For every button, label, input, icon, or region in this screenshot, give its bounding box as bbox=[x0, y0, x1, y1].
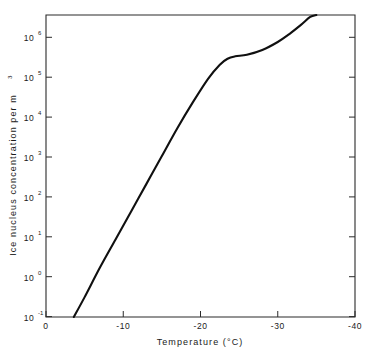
y-axis-title: Ice nucleus concentration per m bbox=[8, 94, 18, 256]
y-tick-label-5-exponent: 5 bbox=[38, 70, 42, 76]
y-tick-labels: 10 6 10 5 10 4 10 3 10 2 10 1 10 0 10 -1 bbox=[24, 30, 44, 323]
plot-frame bbox=[46, 15, 355, 317]
x-tick-label-0: 0 bbox=[43, 321, 48, 331]
y-tick-label-5-mantissa: 10 bbox=[24, 73, 35, 83]
ice-nucleus-concentration-chart: 10 6 10 5 10 4 10 3 10 2 10 1 10 0 10 -1… bbox=[0, 0, 382, 351]
y-tick-label-4-mantissa: 10 bbox=[24, 113, 35, 123]
y-tick-label-3-mantissa: 10 bbox=[24, 153, 35, 163]
y-tick-label-1-mantissa: 10 bbox=[24, 233, 35, 243]
y-axis-title-group: Ice nucleus concentration per m 3 bbox=[6, 75, 18, 256]
x-tick-label-neg10: -10 bbox=[116, 321, 130, 331]
x-tick-labels: 0 -10 -20 -30 -40 bbox=[43, 321, 362, 331]
y-tick-label-4-exponent: 4 bbox=[38, 110, 42, 116]
y-tick-label-0-mantissa: 10 bbox=[24, 273, 35, 283]
y-tick-label-6-exponent: 6 bbox=[38, 30, 42, 36]
y-tick-label-2-exponent: 2 bbox=[38, 190, 42, 196]
x-tick-label-neg20: -20 bbox=[193, 321, 207, 331]
y-axis-title-exponent: 3 bbox=[6, 75, 13, 79]
y-tick-label-2-mantissa: 10 bbox=[24, 193, 35, 203]
y-tick-label-neg1-exponent: -1 bbox=[38, 310, 44, 316]
x-axis-ticks bbox=[46, 311, 355, 317]
y-tick-label-1-exponent: 1 bbox=[38, 230, 42, 236]
chart-canvas: 10 6 10 5 10 4 10 3 10 2 10 1 10 0 10 -1… bbox=[0, 0, 382, 351]
y-tick-label-6-mantissa: 10 bbox=[24, 33, 35, 43]
axis-frame-path bbox=[46, 15, 355, 317]
y-tick-label-neg1-mantissa: 10 bbox=[24, 313, 35, 323]
x-axis-title: Temperature (°C) bbox=[157, 337, 244, 347]
y-axis-ticks bbox=[46, 37, 355, 316]
data-curve bbox=[74, 15, 317, 317]
x-tick-label-neg30: -30 bbox=[271, 321, 285, 331]
y-tick-label-3-exponent: 3 bbox=[38, 150, 42, 156]
x-tick-label-neg40: -40 bbox=[348, 321, 362, 331]
y-tick-label-0-exponent: 0 bbox=[38, 270, 42, 276]
